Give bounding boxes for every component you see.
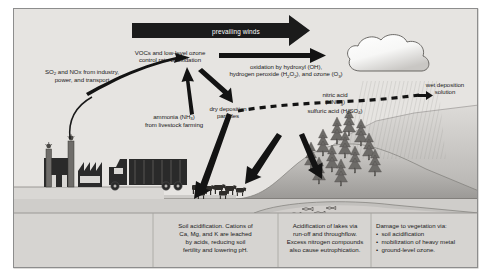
so2-text: SO <box>45 68 54 75</box>
sources-line2: power, and transport <box>55 76 110 83</box>
soil-line-1: Soil acidification. Cations of <box>178 222 253 229</box>
vocs-ozone-label: VOCs and low-level ozone control rate of… <box>122 49 218 64</box>
lake-line-3: Excess nitrogen compounds <box>287 238 364 245</box>
lake-line-4: also cause eutrophication. <box>290 246 361 253</box>
dry-dep-line2: particles <box>217 112 239 119</box>
wet-dep-line1: wet deposition <box>426 81 464 88</box>
vegetation-heading: Damage to vegetation via: <box>376 222 476 230</box>
prevailing-winds-label: prevailing winds <box>212 28 260 35</box>
oxidation-line2c: ), and ozone (O <box>297 70 339 77</box>
vegetation-bullet: soil acidification <box>376 230 476 238</box>
o3-sub: 3 <box>338 74 340 79</box>
ammonia-line2: from livestock farming <box>145 121 203 128</box>
oxidation-line1: oxidation by hydroxyl (OH), <box>250 63 322 70</box>
oxidation-line2a: hydrogen peroxide (H <box>229 70 287 77</box>
nitric-acid-line: nitric acid <box>322 91 347 98</box>
hno3-a: (HNO <box>325 98 340 105</box>
lake-line-2: run-off and throughflow. <box>293 230 357 237</box>
wet-dep-line2: solution <box>435 88 456 95</box>
vegetation-damage-box: Damage to vegetation via: soil acidifica… <box>376 222 476 254</box>
lake-acidification-box: Acidification of lakes via run-off and t… <box>280 222 370 254</box>
vocs-line1: VOCs and low-level ozone <box>135 49 206 56</box>
h2so4-a: sulfuric acid (H <box>307 107 347 114</box>
diagram-panel: prevailing winds SO2 and NOx from indust… <box>13 8 478 268</box>
sources-line1-rest: and NOx from industry, <box>56 68 119 75</box>
vegetation-bullet: ground-level ozone. <box>376 246 476 254</box>
wet-deposition-label: wet deposition solution <box>412 81 478 96</box>
h2o2-sub-o: 2 <box>294 74 296 79</box>
soil-line-4: fertility and lowering pH. <box>183 246 248 253</box>
dry-deposition-label: dry deposition particles <box>193 105 263 120</box>
vegetation-bullet-list: soil acidification mobilization of heavy… <box>376 230 476 254</box>
hno3-sub: 3 <box>340 102 342 107</box>
h2so4-sub-o: 4 <box>358 110 360 115</box>
soil-line-3: by acids, reducing soil <box>186 238 246 245</box>
plain-upper <box>14 187 164 199</box>
ammonia-line1a: ammonia (NH <box>153 113 190 120</box>
hno3-b: ) <box>343 98 345 105</box>
so2-subscript: 2 <box>54 71 56 76</box>
oxidation-label: oxidation by hydroxyl (OH), hydrogen per… <box>200 63 372 79</box>
h2so4-b: SO <box>349 107 358 114</box>
soil-acidification-box: Soil acidification. Cations of Ca, Mg, a… <box>157 222 274 254</box>
vegetation-bullet: mobilization of heavy metal <box>376 238 476 246</box>
acids-label: nitric acid (HNO3) sulfuric acid (H2SO4) <box>276 91 394 115</box>
lake-line-1: Acidification of lakes via <box>293 222 358 229</box>
emission-sources-label: SO2 and NOx from industry, power, and tr… <box>18 68 146 84</box>
figure-root: prevailing winds SO2 and NOx from indust… <box>0 0 493 277</box>
dry-dep-line1: dry deposition <box>209 105 246 112</box>
soil-line-2: Ca, Mg, and K are leached <box>179 230 252 237</box>
vocs-line2: control rate of oxidation <box>139 56 201 63</box>
